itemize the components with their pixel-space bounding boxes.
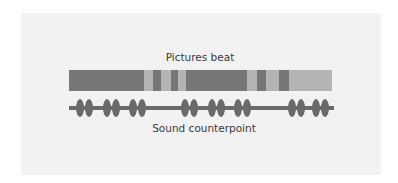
diagram-panel [21, 13, 381, 175]
sound-beat [181, 99, 189, 117]
picture-segment-dark [279, 70, 289, 91]
pictures-beat-bar [69, 70, 332, 91]
sound-beat [234, 99, 242, 117]
picture-segment-light [178, 70, 186, 91]
sound-beat [208, 99, 216, 117]
picture-segment-dark [186, 70, 247, 91]
picture-segment-dark [171, 70, 178, 91]
picture-segment-light [289, 70, 332, 91]
sound-beat [138, 99, 146, 117]
sound-beat [297, 99, 305, 117]
sound-beat [217, 99, 225, 117]
picture-segment-light [247, 70, 257, 91]
sound-beat [190, 99, 198, 117]
sound-beat [103, 99, 111, 117]
sound-beat [112, 99, 120, 117]
sound-beat [76, 99, 84, 117]
picture-segment-light [266, 70, 279, 91]
picture-segment-light [144, 70, 153, 91]
pictures-beat-label: Pictures beat [166, 51, 235, 63]
sound-beat [321, 99, 329, 117]
sound-counterpoint-label: Sound counterpoint [152, 122, 256, 134]
sound-beat [243, 99, 251, 117]
sound-beat [85, 99, 93, 117]
sound-beat [288, 99, 296, 117]
picture-segment-dark [257, 70, 266, 91]
picture-segment-dark [69, 70, 144, 91]
picture-segment-dark [153, 70, 161, 91]
sound-beat [312, 99, 320, 117]
picture-segment-light [161, 70, 171, 91]
sound-beat [129, 99, 137, 117]
